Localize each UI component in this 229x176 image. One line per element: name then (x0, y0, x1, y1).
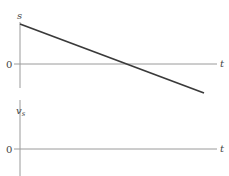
top-x-axis-label: t (220, 58, 225, 69)
top-origin-label: 0 (6, 59, 12, 70)
velocity-time-graph: vs 0 t (6, 100, 225, 176)
position-line (20, 24, 204, 93)
bottom-y-axis-label: vs (16, 105, 26, 118)
bottom-x-axis-label: t (220, 143, 225, 154)
top-y-axis-label: s (17, 10, 22, 21)
bottom-origin-label: 0 (6, 144, 12, 155)
motion-graphs-diagram: s 0 t vs 0 t (0, 0, 229, 176)
position-time-graph: s 0 t (6, 10, 225, 93)
bottom-y-axis-label-subscript: s (22, 110, 26, 118)
